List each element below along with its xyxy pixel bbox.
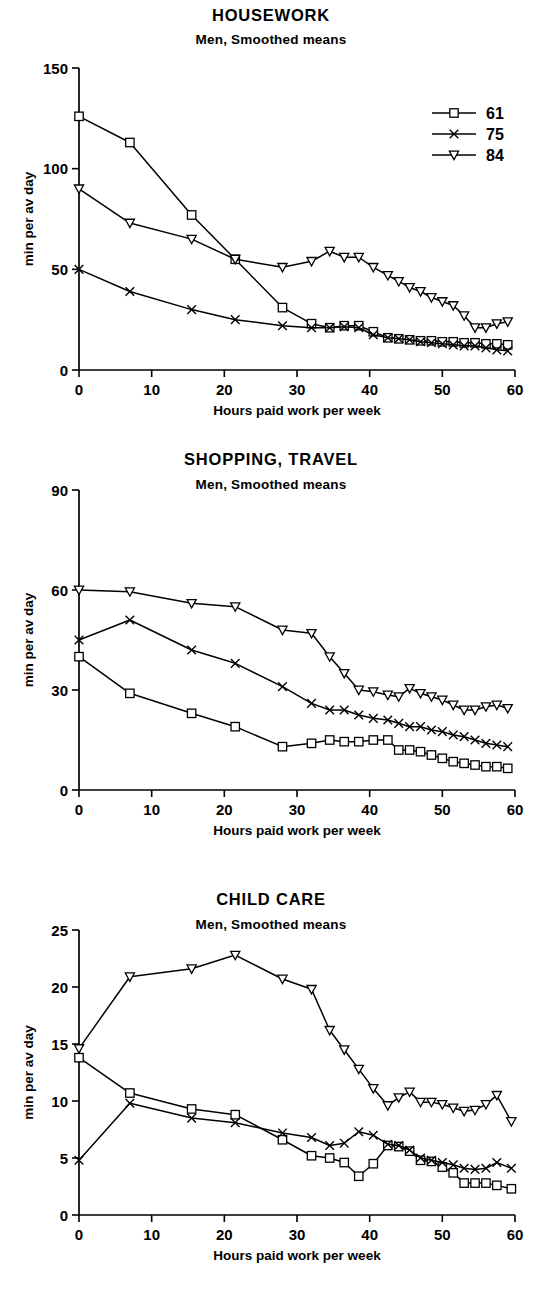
series-61 <box>75 1053 516 1193</box>
series-84 <box>74 951 516 1126</box>
data-point-84 <box>307 985 316 993</box>
data-point-61 <box>340 737 348 745</box>
data-point-84 <box>278 264 287 272</box>
data-point-84 <box>416 288 425 296</box>
y-tick-label: 100 <box>43 160 68 177</box>
data-point-61 <box>384 736 392 744</box>
data-point-61 <box>369 1160 377 1168</box>
legend: 617584 <box>432 105 504 164</box>
legend-label-75: 75 <box>486 126 504 143</box>
data-point-61 <box>482 762 490 770</box>
series-line-61 <box>79 116 508 345</box>
data-point-75 <box>126 616 135 625</box>
square-marker <box>450 109 458 117</box>
x-tick-label: 50 <box>434 381 451 398</box>
data-point-84 <box>74 185 83 193</box>
y-tick-label: 0 <box>60 362 68 379</box>
data-point-61 <box>471 1179 479 1187</box>
data-point-84 <box>383 1102 392 1110</box>
x-tick-label: 0 <box>75 381 83 398</box>
data-point-61 <box>278 303 286 311</box>
x-axis-label: Hours paid work per week <box>213 403 381 418</box>
data-point-75 <box>187 646 196 655</box>
data-point-61 <box>438 754 446 762</box>
data-point-61 <box>355 1172 363 1180</box>
x-tick-label: 10 <box>143 381 160 398</box>
data-point-84 <box>383 272 392 280</box>
y-axis-label: min per av day <box>21 592 36 687</box>
x-tick-label: 0 <box>75 1226 83 1243</box>
data-point-61 <box>504 764 512 772</box>
data-point-61 <box>340 322 348 330</box>
x-tick-label: 40 <box>361 801 378 818</box>
data-point-84 <box>438 696 447 704</box>
y-tick-label: 20 <box>51 979 68 996</box>
data-point-61 <box>75 652 83 660</box>
data-point-61 <box>395 746 403 754</box>
x-tick-label: 60 <box>507 381 524 398</box>
data-point-84 <box>394 693 403 701</box>
x-axis-label: Hours paid work per week <box>213 1248 381 1263</box>
data-point-61 <box>187 211 195 219</box>
x-axis-label: Hours paid work per week <box>213 823 381 838</box>
data-point-61 <box>460 759 468 767</box>
y-tick-label: 50 <box>51 261 68 278</box>
data-point-61 <box>278 742 286 750</box>
data-point-61 <box>126 1089 134 1097</box>
y-tick-label: 0 <box>60 1207 68 1224</box>
data-point-84 <box>481 1101 490 1109</box>
figure-page: HOUSEWORK Men, Smoothed means 0501001500… <box>0 0 542 1315</box>
data-point-61 <box>405 746 413 754</box>
data-point-75 <box>126 287 135 296</box>
data-point-75 <box>278 682 287 691</box>
y-tick-label: 30 <box>51 682 68 699</box>
series-75 <box>75 616 512 751</box>
x-tick-label: 50 <box>434 801 451 818</box>
series-line-75 <box>79 620 508 747</box>
y-tick-label: 0 <box>60 782 68 799</box>
x-tick-label: 20 <box>216 1226 233 1243</box>
series-line-75 <box>79 1103 511 1169</box>
x-tick-label: 30 <box>289 801 306 818</box>
data-point-61 <box>369 736 377 744</box>
chart-panel-shopping: SHOPPING, TRAVEL Men, Smoothed means 030… <box>0 440 542 880</box>
x-tick-label: 10 <box>143 1226 160 1243</box>
data-point-61 <box>340 1158 348 1166</box>
data-point-84 <box>449 701 458 709</box>
data-point-75 <box>507 1164 516 1173</box>
data-point-61 <box>438 1163 446 1171</box>
series-84 <box>74 185 512 332</box>
data-point-75 <box>493 1158 502 1167</box>
y-tick-label: 15 <box>51 1036 68 1053</box>
y-tick-label: 90 <box>51 482 68 499</box>
series-line-61 <box>79 657 508 769</box>
series-line-84 <box>79 590 508 710</box>
x-tick-label: 30 <box>289 1226 306 1243</box>
y-tick-label: 150 <box>43 60 68 77</box>
data-point-61 <box>449 757 457 765</box>
y-axis-label: min per av day <box>21 1025 36 1120</box>
plot-area-housework: 0501001500102030405060Hours paid work pe… <box>0 0 542 440</box>
data-point-61 <box>231 722 239 730</box>
series-75 <box>75 1099 516 1174</box>
plot-area-childcare: 05101520250102030405060Hours paid work p… <box>0 870 542 1315</box>
data-point-61 <box>307 739 315 747</box>
y-axis-label: min per av day <box>21 171 36 266</box>
data-point-61 <box>126 689 134 697</box>
data-point-61 <box>307 319 315 327</box>
data-point-84 <box>369 264 378 272</box>
x-tick-label: 20 <box>216 381 233 398</box>
y-tick-label: 25 <box>51 922 68 939</box>
data-point-84 <box>507 1118 516 1126</box>
legend-label-84: 84 <box>486 147 504 164</box>
x-tick-label: 60 <box>507 801 524 818</box>
data-point-61 <box>449 1169 457 1177</box>
data-point-61 <box>482 1179 490 1187</box>
data-point-61 <box>75 112 83 120</box>
data-point-61 <box>493 762 501 770</box>
chart-panel-childcare: CHILD CARE Men, Smoothed means 051015202… <box>0 870 542 1315</box>
data-point-61 <box>326 1154 334 1162</box>
data-point-61 <box>307 1152 315 1160</box>
data-point-61 <box>75 1053 83 1061</box>
data-point-75 <box>394 719 403 728</box>
